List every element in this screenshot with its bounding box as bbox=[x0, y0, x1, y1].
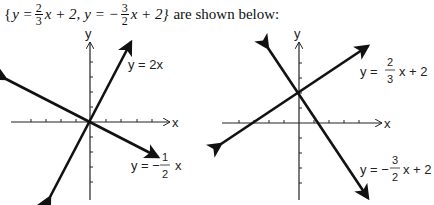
left-x-axis-label: x bbox=[172, 115, 179, 130]
graphs: x y y = 2x y = − 1 2 x x y y = 2 3 bbox=[0, 0, 434, 205]
right-line-y-2-3x-plus-2 bbox=[221, 46, 368, 144]
right-line1-label-prefix: y = bbox=[360, 64, 378, 79]
left-graph: x y y = 2x y = − 1 2 x bbox=[6, 26, 182, 200]
left-line-y-neg-half-x bbox=[6, 79, 158, 157]
right-x-axis-label: x bbox=[384, 116, 391, 131]
right-line1-den: 3 bbox=[387, 73, 393, 85]
left-line2-label-prefix: y = − bbox=[131, 158, 160, 173]
left-y-axis-label: y bbox=[85, 26, 92, 41]
left-line1-label: y = 2x bbox=[128, 57, 164, 72]
right-graph: x y y = 2 3 x + 2 y = − 3 2 x + 2 bbox=[221, 26, 432, 200]
right-line2-den: 2 bbox=[392, 171, 398, 183]
left-line2-den: 2 bbox=[162, 168, 168, 180]
right-line2-num: 3 bbox=[392, 154, 398, 166]
right-line1-num: 2 bbox=[387, 56, 393, 68]
right-y-axis-label: y bbox=[294, 26, 301, 41]
right-line2-label-prefix: y = − bbox=[360, 162, 389, 177]
left-line2-num: 1 bbox=[162, 151, 168, 163]
left-line2-suffix: x bbox=[175, 158, 182, 173]
right-line1-suffix: x + 2 bbox=[399, 64, 428, 79]
right-line2-suffix: x + 2 bbox=[403, 162, 432, 177]
